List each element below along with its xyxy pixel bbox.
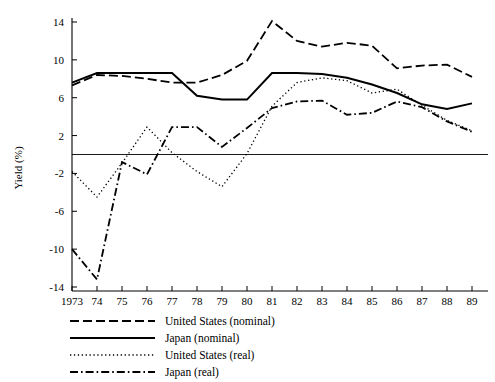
legend-label-2: United States (real) bbox=[165, 349, 255, 362]
x-tick-label: 75 bbox=[117, 295, 129, 307]
y-tick-label: -10 bbox=[49, 243, 64, 255]
x-tick-label: 78 bbox=[192, 295, 204, 307]
x-tick-label: 82 bbox=[292, 295, 303, 307]
legend-label-1: Japan (nominal) bbox=[165, 332, 240, 345]
x-tick-label: 80 bbox=[242, 295, 254, 307]
y-tick-label: 14 bbox=[53, 16, 65, 28]
y-axis-label: Yield (%) bbox=[12, 146, 25, 189]
x-tick-label: 83 bbox=[317, 295, 329, 307]
x-tick-label: 74 bbox=[92, 295, 104, 307]
x-tick-label: 85 bbox=[367, 295, 379, 307]
y-tick-label: -6 bbox=[55, 205, 65, 217]
x-tick-label: 77 bbox=[167, 295, 179, 307]
legend-label-3: Japan (real) bbox=[165, 366, 219, 379]
x-tick-label: 86 bbox=[392, 295, 404, 307]
x-tick-label: 88 bbox=[442, 295, 454, 307]
y-tick-label: 10 bbox=[53, 54, 65, 66]
y-tick-label: -14 bbox=[49, 281, 64, 293]
x-tick-label: 89 bbox=[467, 295, 479, 307]
legend-label-0: United States (nominal) bbox=[165, 315, 275, 328]
x-tick-label: 79 bbox=[217, 295, 229, 307]
x-tick-label: 1973 bbox=[61, 295, 84, 307]
yield-comparison-chart: 141062-2-6-10-14 19737475767778798081828… bbox=[0, 0, 495, 382]
x-tick-label: 76 bbox=[142, 295, 154, 307]
y-tick-label: 2 bbox=[59, 130, 65, 142]
y-tick-label: -2 bbox=[55, 167, 64, 179]
x-tick-label: 84 bbox=[342, 295, 354, 307]
x-tick-label: 87 bbox=[417, 295, 429, 307]
chart-canvas: 141062-2-6-10-14 19737475767778798081828… bbox=[0, 0, 495, 382]
y-tick-label: 6 bbox=[59, 92, 65, 104]
x-tick-label: 81 bbox=[267, 295, 278, 307]
